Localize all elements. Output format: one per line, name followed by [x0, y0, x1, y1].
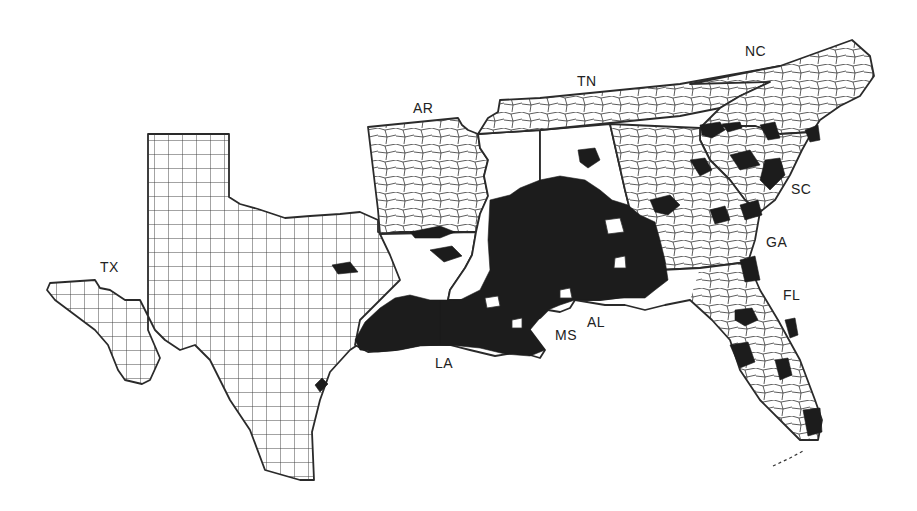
label-louisiana: LA: [435, 355, 453, 371]
label-texas: TX: [100, 259, 119, 275]
label-north-carolina: NC: [745, 43, 766, 59]
label-georgia: GA: [766, 234, 787, 250]
label-alabama: AL: [587, 314, 605, 330]
label-tennessee: TN: [577, 73, 597, 89]
state-arkansas: [368, 118, 488, 234]
map-canvas: [0, 0, 917, 511]
label-south-carolina: SC: [791, 181, 811, 197]
state-texas: [47, 134, 420, 480]
southeast-county-map: TX AR TN NC SC GA FL LA MS AL: [0, 0, 917, 511]
label-mississippi: MS: [555, 327, 577, 343]
label-arkansas: AR: [413, 100, 433, 116]
label-florida: FL: [783, 287, 800, 303]
